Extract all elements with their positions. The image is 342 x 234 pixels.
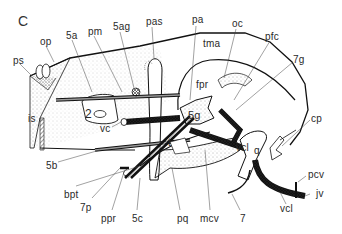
label-pcv: pcv (308, 170, 324, 180)
label-vcl-upper: vcl (236, 143, 249, 153)
label-ps: ps (13, 56, 24, 66)
anatomical-diagram: C ps op 5a pm 5ag pas pa tma oc pfc 7g f… (0, 0, 342, 234)
label-2: 2 (85, 108, 92, 120)
label-pm: pm (88, 27, 102, 37)
label-5c: 5c (132, 214, 143, 224)
label-oc: oc (232, 19, 243, 29)
label-5ag: 5ag (113, 22, 130, 32)
label-op: op (40, 37, 52, 47)
label-is: is (28, 114, 36, 124)
skull-outline (30, 33, 308, 150)
label-pa: pa (192, 15, 204, 25)
label-cp: cp (311, 114, 322, 124)
label-pas: pas (146, 17, 163, 27)
label-jv: jv (316, 189, 324, 199)
panel-letter: C (18, 14, 28, 28)
label-t: t (168, 138, 171, 148)
label-7: 7 (240, 214, 246, 224)
label-5a: 5a (66, 31, 78, 41)
label-7g: 7g (293, 55, 305, 65)
label-tma: tma (203, 39, 220, 49)
label-bpt: bpt (64, 190, 79, 200)
label-q: q (254, 146, 260, 156)
label-mcv: mcv (200, 214, 219, 224)
label-5g: 5g (188, 110, 201, 121)
label-vcl-lower: vcl (280, 204, 293, 214)
label-pfc: pfc (265, 32, 279, 42)
label-ppr: ppr (101, 214, 116, 224)
label-vc: vc (100, 124, 110, 134)
label-5b: 5b (46, 161, 58, 171)
label-pq: pq (177, 214, 189, 224)
quadrate (238, 130, 296, 180)
label-7p: 7p (80, 203, 92, 213)
label-fpr: fpr (196, 80, 208, 90)
